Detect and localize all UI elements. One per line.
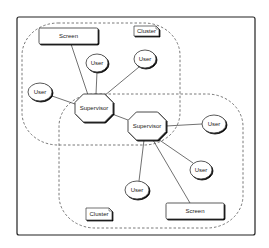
node-user-top-mid[interactable]: User <box>86 54 108 72</box>
screen-label: Screen <box>59 33 78 39</box>
user-label: User <box>131 187 144 193</box>
node-supervisor-2[interactable]: Supervisor <box>128 112 166 140</box>
cluster-label-note[interactable]: Cluster <box>134 26 159 36</box>
node-screen-top[interactable]: Screen <box>39 28 98 44</box>
node-supervisor-1[interactable]: Supervisor <box>75 94 113 122</box>
cluster-label-note[interactable]: Cluster <box>86 208 112 220</box>
supervisor-label: Supervisor <box>133 123 162 129</box>
node-user-bottom[interactable]: User <box>125 181 149 199</box>
user-label: User <box>195 167 208 173</box>
supervisor-label: Supervisor <box>80 105 109 111</box>
user-label: User <box>139 56 152 62</box>
node-user-top-right[interactable]: User <box>134 50 156 68</box>
cluster-label: Cluster <box>89 211 108 217</box>
node-user-right[interactable]: User <box>202 115 226 133</box>
user-label: User <box>91 60 104 66</box>
cluster-label: Cluster <box>137 28 156 34</box>
user-label: User <box>208 121 221 127</box>
diagram-canvas: ClusterCluster ScreenUserUserUserSupervi… <box>0 0 269 248</box>
user-label: User <box>34 89 47 95</box>
node-screen-bottom[interactable]: Screen <box>166 203 224 219</box>
node-user-left[interactable]: User <box>28 83 52 101</box>
screen-label: Screen <box>185 208 204 214</box>
node-user-right-lower[interactable]: User <box>190 161 212 179</box>
